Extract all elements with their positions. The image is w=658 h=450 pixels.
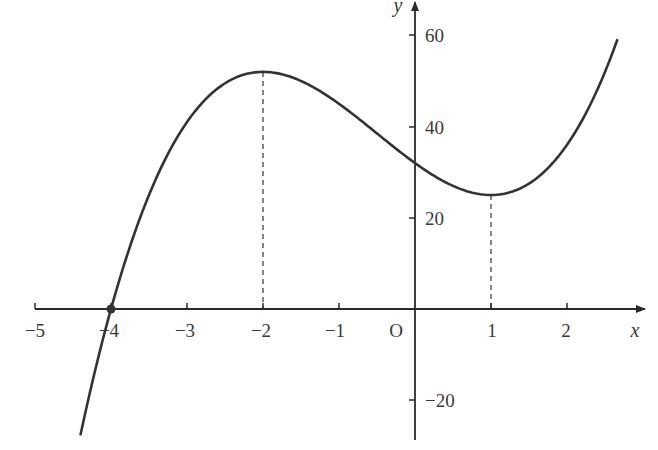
x-tick-label: −2 [251,320,271,341]
x-axis-label: x [630,319,640,341]
y-tick-label: 60 [425,25,444,46]
x-tick-label: 2 [561,320,571,341]
function-curve [81,40,618,434]
chart: −5 −4 −3 −2 −1 O 1 2 x 60 40 20 −20 y [0,0,658,450]
root-point [107,305,116,314]
x-tick-label: −3 [175,320,195,341]
x-tick-label: 1 [487,320,497,341]
y-tick-label: 20 [425,208,444,229]
y-axis-label: y [392,0,403,17]
x-tick-label: −1 [325,320,345,341]
x-tick-label: −4 [99,320,120,341]
x-tick-label: −5 [25,320,45,341]
origin-label: O [389,320,403,341]
y-tick-label: −20 [425,390,455,411]
y-tick-label: 40 [425,117,444,138]
